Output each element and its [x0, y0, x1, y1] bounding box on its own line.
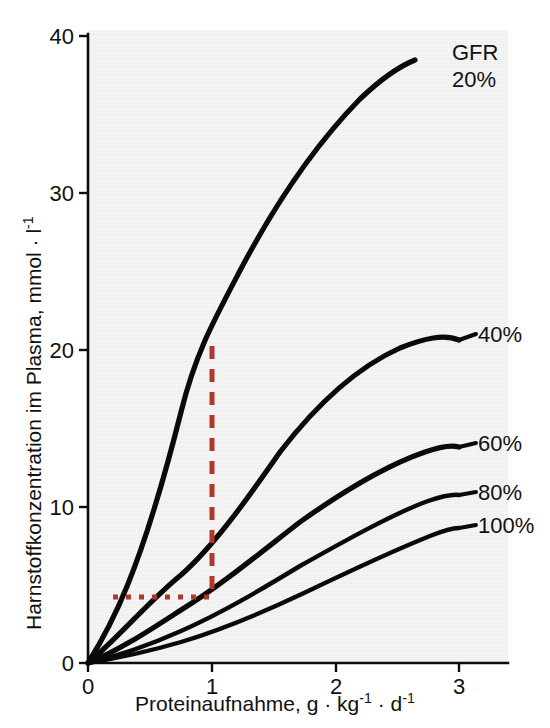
- curve-gfr-40: [88, 337, 459, 663]
- figure-root: 40 30 20 10 0 0 1 2 3 GFR 20% 40% 60% 80…: [0, 0, 550, 728]
- chart-canvas: [0, 0, 550, 728]
- y-axis-title: Harnstoffkonzentration im Plasma, mmol ·…: [22, 216, 46, 630]
- curve-gfr-80: [88, 495, 459, 663]
- y-axis-title-text: Harnstoffkonzentration im Plasma, mmol ·…: [22, 229, 45, 630]
- x-axis-title-exponent-1: -1: [359, 690, 372, 706]
- series-label-40: 40%: [478, 322, 522, 348]
- x-axis-title-mid: · d: [372, 692, 402, 715]
- y-axis-title-exponent: -1: [20, 216, 36, 229]
- series-label-100: 100%: [478, 513, 534, 539]
- series-label-60: 60%: [478, 431, 522, 457]
- leader-line-60: [459, 443, 476, 447]
- curve-gfr-20: [88, 60, 415, 663]
- series-label-80: 80%: [478, 480, 522, 506]
- legend-title-gfr: GFR: [452, 40, 498, 67]
- y-tick-label-0: 0: [24, 651, 74, 677]
- curve-gfr-60: [88, 446, 459, 663]
- leader-line-80: [459, 492, 476, 495]
- x-axis-title-exponent-2: -1: [402, 690, 415, 706]
- leader-line-100: [459, 525, 476, 528]
- leader-line-40: [459, 334, 476, 340]
- y-tick-label-30: 30: [24, 181, 74, 207]
- x-axis-title: Proteinaufnahme, g · kg-1 · d-1: [0, 692, 550, 716]
- x-axis-title-text: Proteinaufnahme, g · kg: [135, 692, 359, 715]
- legend-gfr-block: GFR 20%: [452, 40, 498, 94]
- y-tick-label-40: 40: [24, 24, 74, 50]
- legend-label-20: 20%: [452, 67, 498, 94]
